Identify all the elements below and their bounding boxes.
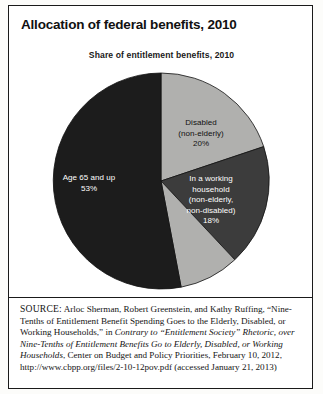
source-divider <box>9 297 312 298</box>
scanned-page: Allocation of federal benefits, 2010 Sha… <box>0 0 323 394</box>
pie-label-age-65-and-up: Age 65 and up53% <box>37 173 141 194</box>
pie-chart: Age 65 and up53% Disabled(non-elderly)20… <box>9 6 314 296</box>
pie-label-disabled: Disabled(non-elderly)20% <box>157 118 245 150</box>
figure-box: Allocation of federal benefits, 2010 Sha… <box>8 5 313 389</box>
source-note: SOURCE: Arloc Sherman, Robert Greenstein… <box>20 303 303 374</box>
source-label: SOURCE: <box>20 303 62 314</box>
pie-label-working-household: In a workinghousehold(non-elderly,non-di… <box>166 174 256 227</box>
pie-chart-svg <box>9 6 314 296</box>
